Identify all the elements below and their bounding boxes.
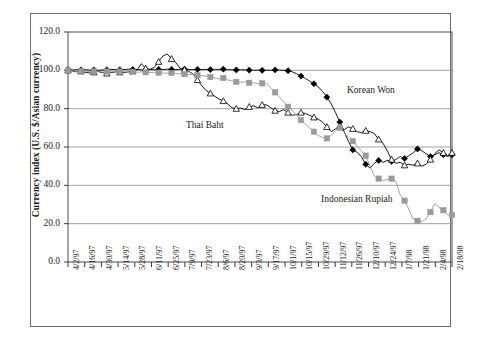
x-tick-label: 4/16/97 [88, 246, 97, 270]
marker-square [389, 176, 394, 181]
y-tick-label: 60.0 [20, 141, 60, 151]
marker-diamond [350, 147, 356, 153]
x-tick-label: 9/17/97 [272, 246, 281, 270]
marker-triangle [388, 156, 394, 162]
x-tick-label: 2/4/98 [439, 250, 448, 270]
marker-diamond [233, 67, 239, 73]
marker-square [104, 69, 109, 74]
marker-diamond [272, 67, 278, 73]
chart-plot-svg [0, 0, 480, 343]
x-tick-label: 5/14/97 [122, 246, 131, 270]
marker-square [415, 218, 420, 223]
marker-square [117, 69, 122, 74]
marker-square [350, 139, 355, 144]
marker-triangle [207, 90, 213, 96]
series-label-thai-baht: Thai Baht [186, 120, 224, 130]
y-tick-label: 40.0 [20, 179, 60, 189]
marker-diamond [376, 157, 382, 163]
x-tick-label: 12/24/97 [389, 242, 398, 270]
marker-square [78, 68, 83, 73]
gridlines [68, 32, 452, 262]
series-label-korean-won: Korean Won [347, 85, 395, 95]
x-tick-label: 8/6/97 [222, 250, 231, 270]
y-tick-marks [64, 32, 68, 262]
series-lines [68, 54, 452, 222]
marker-square [298, 117, 303, 122]
marker-diamond [311, 81, 317, 87]
marker-triangle [449, 150, 455, 156]
marker-square [376, 176, 381, 181]
marker-square [221, 75, 226, 80]
marker-diamond [298, 73, 304, 79]
marker-triangle [350, 126, 356, 132]
x-tick-label: 1/7/98 [405, 250, 414, 270]
y-tick-label: 80.0 [20, 103, 60, 113]
marker-square [272, 90, 277, 95]
x-tick-label: 11/26/97 [355, 242, 364, 270]
marker-square [208, 74, 213, 79]
x-tick-label: 2/18/98 [456, 246, 465, 270]
y-tick-label: 20.0 [20, 218, 60, 228]
marker-square [234, 79, 239, 84]
marker-square [169, 70, 174, 75]
marker-square [182, 71, 187, 76]
x-tick-label: 5/28/97 [138, 246, 147, 270]
x-tick-label: 8/20/97 [238, 246, 247, 270]
x-tick-label: 10/1/97 [289, 246, 298, 270]
series-markers [65, 56, 455, 224]
marker-square [143, 70, 148, 75]
marker-square [156, 70, 161, 75]
y-tick-label: 100.0 [20, 64, 60, 74]
marker-square [324, 136, 329, 141]
x-tick-label: 7/9/97 [188, 250, 197, 270]
currency-index-chart: Currency index (U.S. $/Asian currency) 0… [0, 0, 480, 343]
x-tick-label: 1/21/98 [422, 246, 431, 270]
marker-square [402, 198, 407, 203]
marker-triangle [311, 114, 317, 120]
x-tick-label: 4/30/97 [105, 246, 114, 270]
marker-triangle [285, 109, 291, 115]
marker-square [428, 209, 433, 214]
x-tick-label: 10/15/97 [305, 242, 314, 270]
x-tick-label: 4/2/97 [72, 250, 81, 270]
marker-diamond [220, 66, 226, 72]
marker-diamond [259, 67, 265, 73]
marker-diamond [285, 68, 291, 74]
y-tick-label: 120.0 [20, 26, 60, 36]
marker-square [91, 69, 96, 74]
marker-square [130, 69, 135, 74]
marker-square [441, 208, 446, 213]
marker-square [337, 125, 342, 130]
marker-triangle [298, 109, 304, 115]
marker-square [285, 104, 290, 109]
series-label-indonesian-rupiah: Indonesian Rupiah [321, 194, 393, 204]
marker-diamond [207, 66, 213, 72]
x-tick-label: 6/25/97 [172, 246, 181, 270]
marker-square [65, 68, 70, 73]
marker-square [259, 81, 264, 86]
x-tick-label: 7/23/97 [205, 246, 214, 270]
marker-square [363, 153, 368, 158]
x-tick-label: 9/3/97 [255, 250, 264, 270]
marker-square [311, 129, 316, 134]
marker-triangle [440, 150, 446, 156]
marker-triangle [414, 160, 420, 166]
x-tick-label: 12/10/97 [372, 242, 381, 270]
marker-square [247, 80, 252, 85]
marker-diamond [401, 155, 407, 161]
marker-triangle [272, 107, 278, 113]
marker-triangle [363, 128, 369, 134]
marker-diamond [246, 67, 252, 73]
x-tick-label: 6/11/97 [155, 246, 164, 270]
marker-square [449, 212, 454, 217]
y-tick-label: 0.0 [20, 256, 60, 266]
marker-triangle [220, 98, 226, 104]
marker-diamond [194, 66, 200, 72]
x-tick-label: 10/29/97 [322, 242, 331, 270]
x-tick-label: 11/12/97 [339, 242, 348, 270]
marker-square [195, 72, 200, 77]
